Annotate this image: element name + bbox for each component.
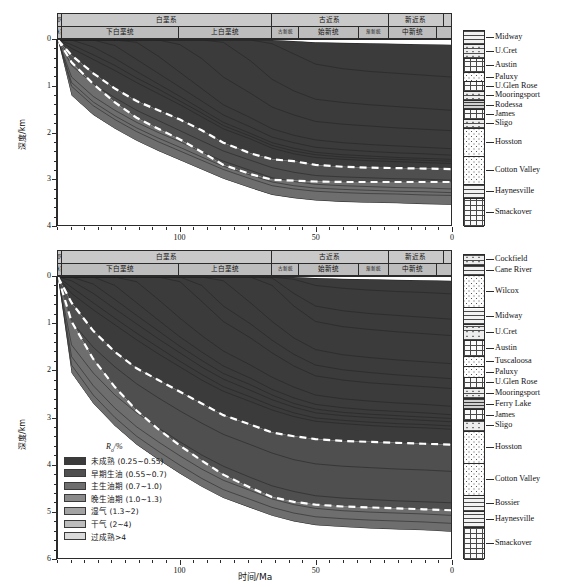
x-minor-tick <box>398 560 399 563</box>
strat-legend-label-2: Austin <box>495 60 517 69</box>
maturity-legend-text-2: 主生油期 (0.7~1.0) <box>91 480 162 491</box>
x-minor-tick <box>152 227 153 230</box>
x-minor-tick <box>398 227 399 230</box>
x-minor-tick <box>261 227 262 230</box>
bottom-panel: 侏罗系白垩系古近系新近系上侏罗统下白垩统上白垩统古新统始新统渐新统中新统 012… <box>0 250 569 587</box>
x-minor-tick <box>98 560 99 563</box>
strat-segment-u-cret <box>464 45 484 59</box>
x-minor-tick <box>261 560 262 563</box>
x-minor-tick <box>125 227 126 230</box>
strat-legend-label-7: Paluxy <box>495 367 518 376</box>
strat-segment-bossier <box>464 496 484 512</box>
strat-segment-paluxy <box>464 73 484 82</box>
strat-segment-sligo <box>464 421 484 432</box>
x-minor-tick <box>425 227 426 230</box>
bottom-x-axis-label: 时间/Ma <box>190 570 320 583</box>
strat-legend-leader-9 <box>486 142 494 143</box>
strat-segment-haynesville <box>464 512 484 528</box>
bottom-series-5: 渐新统 <box>359 263 389 275</box>
chronostratigraphy-header-top: 侏罗系白垩系古近系新近系上侏罗统下白垩统上白垩统古新统始新统渐新统中新统 <box>57 13 452 39</box>
top-y-axis-label: 深度/km <box>16 119 27 150</box>
chronostratigraphy-header-bottom: 侏罗系白垩系古近系新近系上侏罗统下白垩统上白垩统古新统始新统渐新统中新统 <box>57 250 452 276</box>
x-minor-tick <box>275 560 276 563</box>
x-minor-tick <box>84 227 85 230</box>
x-minor-tick <box>234 227 235 230</box>
strat-segment-hosston <box>464 129 484 157</box>
strat-legend-leader-1 <box>486 51 494 52</box>
strat-segment-cotton-valley <box>464 157 484 185</box>
strat-legend-leader-17 <box>486 543 494 544</box>
strat-segment-midway <box>464 309 484 325</box>
x-minor-tick <box>329 560 330 563</box>
strat-legend-leader-3 <box>486 316 494 317</box>
top-series-4: 始新统 <box>299 26 359 38</box>
strat-legend-leader-4 <box>486 332 494 333</box>
x-minor-tick <box>357 560 358 563</box>
x-minor-tick <box>329 227 330 230</box>
strat-legend-label-11: James <box>495 410 515 419</box>
x-minor-tick <box>248 227 249 230</box>
strat-legend-label-3: Midway <box>495 311 522 320</box>
bottom-series-7 <box>437 263 451 275</box>
strat-legend-leader-6 <box>486 361 494 362</box>
x-minor-tick <box>125 560 126 563</box>
y-tick-label: 1 <box>29 81 51 90</box>
strat-legend-label-14: Cotton Valley <box>495 474 540 483</box>
strat-segment-smackover <box>464 199 484 227</box>
strat-segment-cotton-valley <box>464 464 484 496</box>
maturity-legend: Ro/% 未成熟 (0.25~0.55)早期生油 (0.55~0.7)主生油期 … <box>64 442 214 547</box>
strat-legend-leader-6 <box>486 105 494 106</box>
y-axis-spine <box>56 276 57 559</box>
maturity-legend-swatch-6 <box>64 532 86 540</box>
x-minor-tick <box>289 560 290 563</box>
strat-legend-label-8: Sligo <box>495 118 512 127</box>
strat-segment-u-cret <box>464 325 484 341</box>
x-minor-tick <box>289 227 290 230</box>
strat-legend-leader-14 <box>486 479 494 480</box>
top-panel: 侏罗系白垩系古近系新近系上侏罗统下白垩统上白垩统古新统始新统渐新统中新统 012… <box>0 0 569 250</box>
top-series-6: 中新统 <box>389 26 437 38</box>
strat-legend-leader-1 <box>486 270 494 271</box>
x-minor-tick <box>139 560 140 563</box>
y-tick-label: 4 <box>29 460 51 469</box>
strat-segment-sligo <box>464 120 484 129</box>
strat-legend-label-5: Austin <box>495 343 517 352</box>
strat-legend-label-12: Smackover <box>495 207 532 216</box>
x-minor-tick <box>193 560 194 563</box>
strat-legend-label-9: Mooringsport <box>495 388 540 397</box>
y-tick-label: 3 <box>29 413 51 422</box>
bottom-series-2: 上白垩统 <box>179 263 273 275</box>
strat-legend-leader-10 <box>486 404 494 405</box>
y-tick-label: 6 <box>29 554 51 563</box>
strat-legend-leader-11 <box>486 415 494 416</box>
maturity-legend-row-6: 过成熟>4 <box>64 532 126 541</box>
y-tick-label: 0 <box>29 34 51 43</box>
y-tick-label: 3 <box>29 174 51 183</box>
strat-legend-label-7: James <box>495 109 515 118</box>
x-minor-tick <box>438 227 439 230</box>
y-tick-label: 1 <box>29 318 51 327</box>
strat-legend-label-10: Ferry Lake <box>495 399 531 408</box>
maturity-legend-row-3: 晚生油期 (1.0~1.3) <box>64 494 162 503</box>
x-minor-tick <box>248 560 249 563</box>
strat-segment-james <box>464 110 484 119</box>
x-minor-tick <box>207 560 208 563</box>
strat-legend-leader-0 <box>486 259 494 260</box>
top-plot-area <box>57 39 452 226</box>
strat-legend-leader-5 <box>486 348 494 349</box>
strat-segment-cane-river <box>464 266 484 277</box>
x-minor-tick <box>425 560 426 563</box>
x-minor-tick <box>220 227 221 230</box>
bottom-system-2: 古近系 <box>272 251 389 263</box>
strat-segment-paluxy <box>464 367 484 378</box>
x-tick <box>452 227 453 232</box>
strat-legend-label-3: Paluxy <box>495 72 518 81</box>
x-minor-tick <box>370 560 371 563</box>
maturity-legend-row-1: 早期生油 (0.55~0.7) <box>64 469 167 478</box>
top-system-1: 白垩系 <box>62 14 272 26</box>
strat-segment-rodessa <box>464 101 484 110</box>
strat-segment-mooringsport <box>464 92 484 101</box>
x-minor-tick <box>220 560 221 563</box>
strat-legend-leader-7 <box>486 114 494 115</box>
strat-segment-tuscaloosa <box>464 357 484 368</box>
